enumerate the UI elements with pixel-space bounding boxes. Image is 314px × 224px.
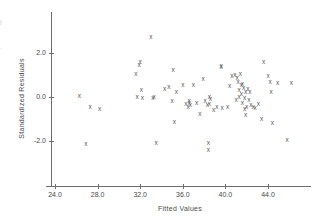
data-point-marker: x	[151, 93, 157, 100]
data-point-marker: x	[227, 82, 233, 89]
data-point-marker: x	[218, 62, 224, 69]
data-point-marker: x	[225, 103, 231, 110]
data-point-marker: x	[261, 58, 267, 65]
data-point-marker: x	[207, 95, 213, 102]
data-point-marker: x	[170, 66, 176, 73]
data-point-marker: x	[76, 92, 82, 99]
data-point-marker: x	[247, 88, 253, 95]
residual-scatter-plot: j · f j 2.00.0-2.024.028.032.036.040.044…	[0, 0, 314, 224]
data-point-marker: x	[268, 88, 274, 95]
data-point-marker: x	[153, 139, 159, 146]
data-point-marker: x	[138, 86, 144, 93]
data-point-marker: x	[205, 146, 211, 153]
data-point-marker: x	[139, 94, 145, 101]
data-point-marker: x	[190, 81, 196, 88]
data-point-marker: x	[137, 58, 143, 65]
data-point-marker: x	[133, 70, 139, 77]
data-point-marker: x	[237, 70, 243, 77]
data-point-marker: x	[259, 115, 265, 122]
data-point-marker: x	[83, 140, 89, 147]
data-point-marker: x	[187, 101, 193, 108]
data-point-marker: x	[288, 79, 294, 86]
data-point-marker: x	[97, 105, 103, 112]
data-point-marker: x	[269, 119, 275, 126]
data-point-marker: x	[284, 136, 290, 143]
data-point-marker: x	[148, 33, 154, 40]
data-point-marker: x	[200, 75, 206, 82]
data-point-marker: x	[267, 78, 273, 85]
data-point-marker: x	[166, 83, 172, 90]
data-point-marker: x	[197, 110, 203, 117]
data-point-marker: x	[243, 111, 249, 118]
data-points-layer: xxxxxxxxxxxxxxxxxxxxxxxxxxxxxxxxxxxxxxxx…	[0, 0, 314, 224]
data-point-marker: x	[255, 100, 261, 107]
data-point-marker: x	[194, 99, 200, 106]
data-point-marker: x	[180, 81, 186, 88]
y-axis-title: Standardized Residuals	[18, 39, 25, 159]
data-point-marker: x	[87, 103, 93, 110]
data-point-marker: x	[173, 88, 179, 95]
x-axis-title: Fitted Values	[100, 205, 260, 212]
data-point-marker: x	[169, 97, 175, 104]
data-point-marker: x	[275, 79, 281, 86]
data-point-marker: x	[171, 118, 177, 125]
